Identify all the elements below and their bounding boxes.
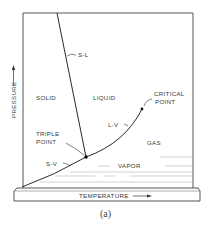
- y-axis-label: PRESSURE: [10, 82, 17, 118]
- triple-point-label-line2: POINT: [36, 138, 56, 145]
- figure-caption: (a): [100, 208, 111, 220]
- critical-point-label-line1: CRITICAL: [154, 90, 185, 97]
- solid-liquid-curve: [57, 13, 86, 157]
- curve-lv-label: L-V: [108, 121, 119, 128]
- y-axis-arrowhead: [12, 65, 15, 70]
- triple-point-marker: [84, 155, 88, 159]
- triple-point-label-line1: TRIPLE: [36, 130, 59, 137]
- phase-diagram: PRESSURE TEMPERATURE SOLID LIQUID GAS VA…: [0, 0, 211, 226]
- region-vapor-label: VAPOR: [118, 162, 141, 169]
- curve-sv-label: S-V: [46, 160, 58, 167]
- curve-sl-leader: [67, 54, 76, 56]
- region-solid-label: SOLID: [36, 94, 56, 101]
- critical-point-label-line2: POINT: [155, 98, 175, 105]
- critical-point-leader: [144, 99, 152, 106]
- x-axis-arrowhead: [147, 194, 152, 197]
- region-liquid-label: LIQUID: [93, 94, 116, 101]
- critical-point-marker: [141, 108, 144, 111]
- triple-point-leader: [66, 143, 84, 155]
- curve-sv-leader: [63, 163, 71, 166]
- liquid-vapor-curve: [86, 109, 142, 157]
- curve-sl-label: S-L: [78, 51, 89, 58]
- x-axis-label: TEMPERATURE: [79, 192, 129, 199]
- region-gas-label: GAS: [147, 139, 161, 146]
- curve-lv-leader: [124, 124, 128, 126]
